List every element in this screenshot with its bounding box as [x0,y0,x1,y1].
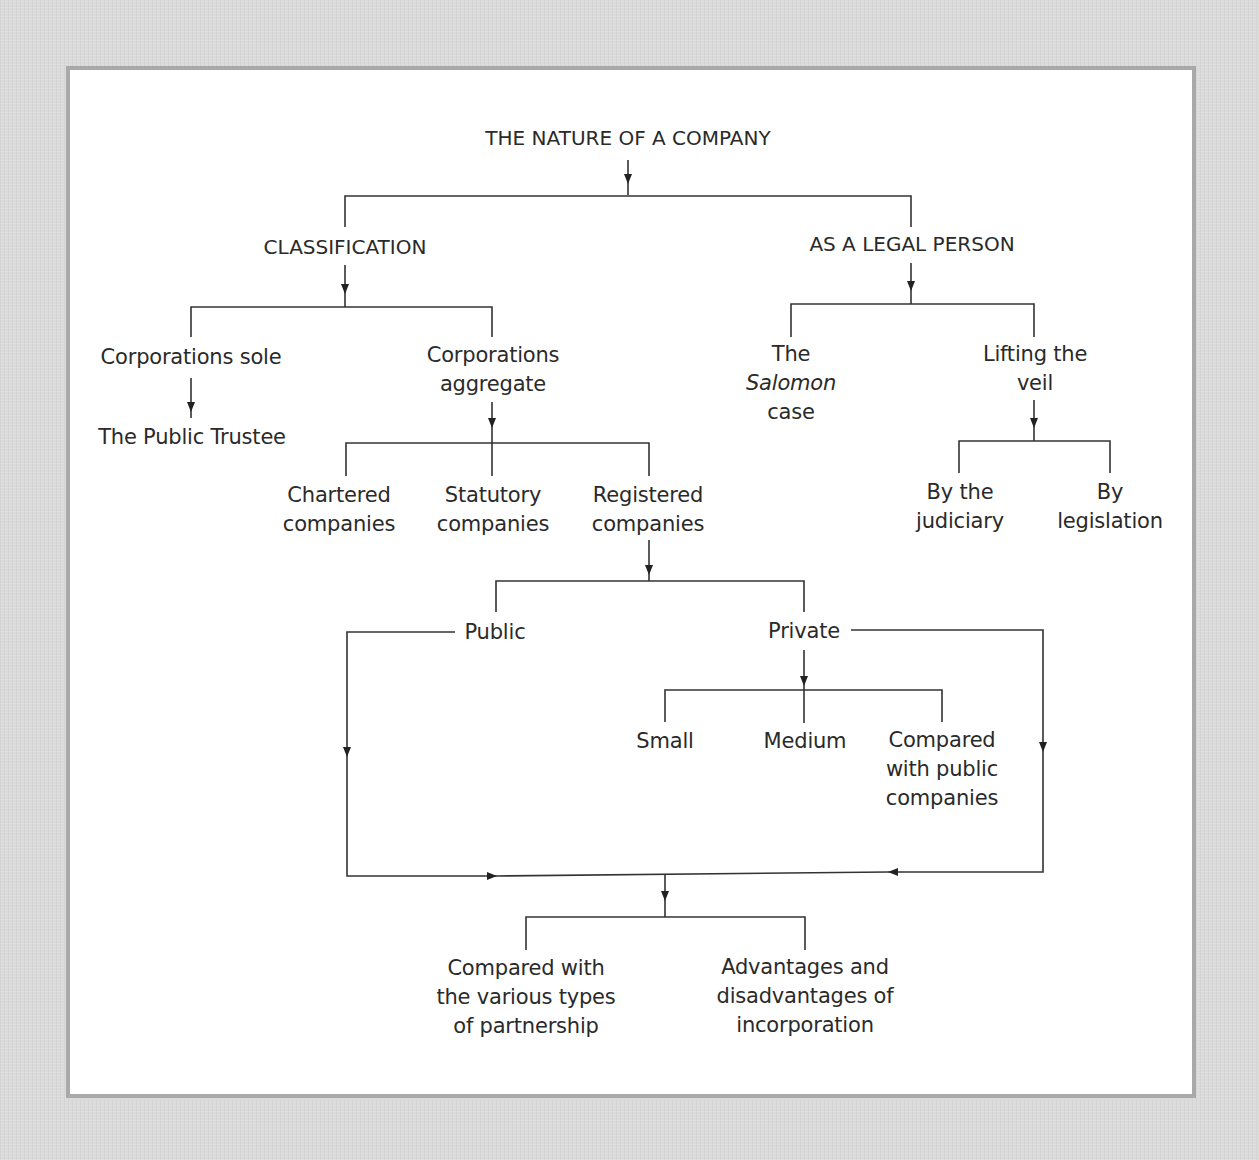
node-line: Compared with [436,954,615,983]
node-line: judiciary [916,507,1004,536]
node-line: companies [283,510,395,539]
node-lifting-veil: Lifting the veil [983,340,1087,398]
node-line: Statutory [437,481,549,510]
node-line: Lifting the [983,340,1087,369]
node-line: the various types [436,983,615,1012]
node-line: Registered [592,481,704,510]
node-salomon-case: The Salomon case [746,340,836,427]
node-line: aggregate [427,370,560,399]
node-corporations-sole: Corporations sole [101,343,282,372]
node-line-italic: Salomon [746,369,836,398]
node-registered-companies: Registered companies [592,481,704,539]
node-line: disadvantages of [717,982,894,1011]
node-line: case [746,398,836,427]
node-line: with public [886,755,998,784]
node-line: The [746,340,836,369]
node-chartered-companies: Chartered companies [283,481,395,539]
node-line: incorporation [717,1011,894,1040]
node-line: of partnership [436,1012,615,1041]
node-medium: Medium [764,727,847,756]
node-line: companies [592,510,704,539]
node-line: Chartered [283,481,395,510]
node-by-legislation: By legislation [1057,478,1163,536]
node-public-trustee: The Public Trustee [98,423,286,452]
node-line: By the [916,478,1004,507]
node-line: legislation [1057,507,1163,536]
node-advantages-incorporation: Advantages and disadvantages of incorpor… [717,953,894,1040]
node-statutory-companies: Statutory companies [437,481,549,539]
diagram-panel [66,66,1196,1098]
node-line: companies [437,510,549,539]
node-line: companies [886,784,998,813]
node-private: Private [768,617,840,646]
node-line: By [1057,478,1163,507]
node-compared-public: Compared with public companies [886,726,998,813]
node-line: veil [983,369,1087,398]
node-compared-partnership: Compared with the various types of partn… [436,954,615,1041]
node-line: Corporations [427,341,560,370]
node-legal-person: AS A LEGAL PERSON [809,230,1014,259]
node-by-judiciary: By the judiciary [916,478,1004,536]
node-line: Advantages and [717,953,894,982]
node-small: Small [636,727,693,756]
node-line: Compared [886,726,998,755]
diagram-title: THE NATURE OF A COMPANY [485,124,770,153]
node-classification: CLASSIFICATION [264,233,427,262]
node-corporations-aggregate: Corporations aggregate [427,341,560,399]
node-public: Public [465,618,526,647]
